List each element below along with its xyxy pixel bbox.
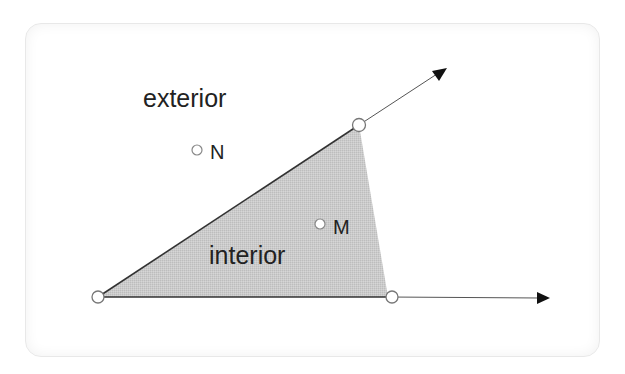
upper-ray-arrowhead-icon — [432, 68, 447, 81]
lower-ray-arrowhead-icon — [537, 292, 550, 304]
exterior-label: exterior — [143, 84, 226, 112]
upper-ray — [359, 72, 440, 125]
point-m-marker — [315, 219, 325, 229]
lower-ray — [388, 297, 540, 298]
point-n-label: N — [210, 141, 224, 163]
point-n-marker — [192, 145, 202, 155]
interior-region — [98, 125, 388, 297]
vertex-point — [92, 291, 104, 303]
upper-ray-point — [353, 119, 366, 132]
angle-diagram: N M exterior interior — [0, 0, 625, 374]
interior-label: interior — [209, 241, 285, 269]
point-m-label: M — [333, 216, 350, 238]
lower-ray-point — [386, 291, 398, 303]
